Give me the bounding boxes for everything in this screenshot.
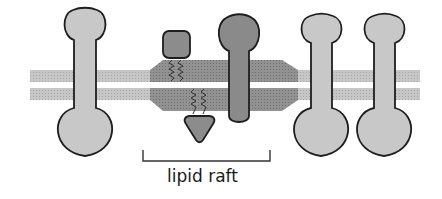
raft-bracket [143,150,270,161]
raft-inner-leaflet [150,88,298,111]
transmembrane-protein-right-2 [357,14,411,156]
transmembrane-protein-right-1 [294,14,348,156]
gpi-anchored-protein [163,31,190,58]
lipid-raft-label: lipid raft [167,166,238,186]
lipid-anchored-protein [185,116,215,142]
